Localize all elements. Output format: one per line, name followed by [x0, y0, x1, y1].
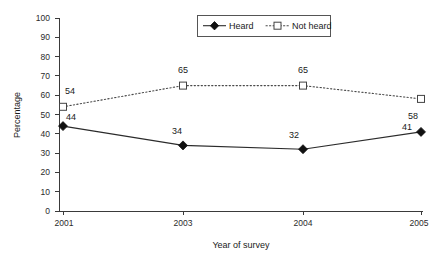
legend-label-heard: Heard	[229, 21, 254, 31]
line-chart: 100 90 80 70 60 50 40 30 20 10 0	[0, 0, 441, 261]
x-axis-title: Year of survey	[212, 240, 270, 250]
heard-marker	[417, 127, 426, 136]
not-heard-value-label: 54	[65, 86, 75, 96]
heard-value-label: 44	[66, 112, 76, 122]
not-heard-marker	[60, 103, 67, 110]
legend-label-not-heard: Not heard	[292, 21, 332, 31]
y-tick-label: 60	[41, 90, 51, 100]
series-not-heard	[60, 82, 425, 110]
data-point-labels: 54 65 65 58 44 34 32 41	[65, 65, 418, 140]
y-axis-tick-labels: 100 90 80 70 60 50 40 30 20 10 0	[36, 13, 50, 216]
x-axis-tick-labels: 2001 2003 2004 2005	[55, 218, 429, 228]
y-tick-label: 90	[41, 32, 51, 42]
y-axis-title: Percentage	[12, 92, 22, 138]
legend-entry-not-heard[interactable]: Not heard	[266, 21, 332, 31]
y-tick-label: 30	[41, 148, 51, 158]
not-heard-value-label: 65	[178, 65, 188, 75]
heard-marker	[299, 145, 308, 154]
not-heard-marker	[418, 95, 425, 102]
chart-legend[interactable]: Heard Not heard	[197, 16, 332, 37]
x-axis-ticks	[63, 211, 421, 215]
y-tick-label: 10	[41, 187, 51, 197]
chart-container: 100 90 80 70 60 50 40 30 20 10 0	[0, 0, 441, 261]
heard-line	[63, 126, 421, 149]
y-tick-label: 20	[41, 167, 51, 177]
not-heard-marker	[180, 82, 187, 89]
heard-value-label: 41	[402, 122, 412, 132]
y-tick-label: 100	[36, 13, 50, 23]
open-square-icon	[274, 22, 281, 29]
y-tick-label: 70	[41, 71, 51, 81]
y-tick-label: 0	[45, 206, 50, 216]
y-tick-label: 50	[41, 110, 51, 120]
x-tick-label: 2003	[174, 218, 193, 228]
not-heard-value-label: 58	[408, 111, 418, 121]
heard-value-label: 32	[289, 130, 299, 140]
not-heard-value-label: 65	[298, 65, 308, 75]
series-heard	[59, 122, 426, 154]
x-tick-label: 2005	[410, 218, 429, 228]
x-tick-label: 2001	[55, 218, 74, 228]
y-axis-ticks	[55, 18, 59, 211]
heard-value-label: 34	[172, 126, 182, 136]
y-tick-label: 80	[41, 52, 51, 62]
y-tick-label: 40	[41, 129, 51, 139]
heard-marker	[59, 122, 68, 131]
not-heard-marker	[300, 82, 307, 89]
not-heard-line	[63, 86, 421, 107]
heard-marker	[179, 141, 188, 150]
x-tick-label: 2004	[294, 218, 313, 228]
